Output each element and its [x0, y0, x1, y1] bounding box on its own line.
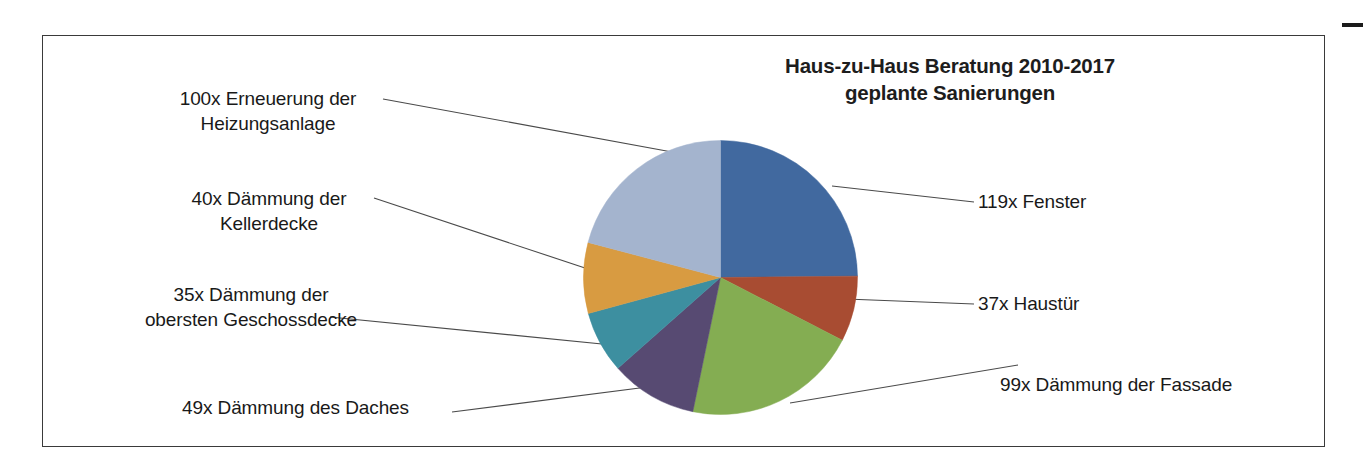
- chart-title-line1: Haus-zu-Haus Beratung 2010-2017: [785, 54, 1115, 77]
- pie-slices: [583, 141, 857, 415]
- chart-title-line2: geplante Sanierungen: [700, 79, 1200, 106]
- pie-chart: [583, 140, 858, 415]
- callout-label-haustuer: 37x Haustür: [978, 291, 1218, 316]
- screenshot-page: Haus-zu-Haus Beratung 2010-2017 geplante…: [0, 0, 1363, 467]
- callout-label-kellerdecke: 40x Dämmung der Kellerdecke: [158, 186, 380, 237]
- scan-edge-mark: [1342, 23, 1363, 27]
- callout-label-fassade: 99x Dämmung der Fassade: [1000, 372, 1300, 397]
- callout-label-dach: 49x Dämmung des Daches: [182, 395, 452, 420]
- callout-keller-line1: 40x Dämmung der: [192, 188, 347, 209]
- pie-chart-svg: [583, 140, 858, 415]
- chart-title: Haus-zu-Haus Beratung 2010-2017 geplante…: [700, 52, 1200, 106]
- callout-label-heizungsanlage: 100x Erneuerung der Heizungsanlage: [148, 86, 388, 137]
- callout-heizung-line1: 100x Erneuerung der: [180, 88, 357, 109]
- callout-label-fenster: 119x Fenster: [978, 189, 1218, 214]
- callout-keller-line2: Kellerdecke: [220, 213, 318, 234]
- callout-heizung-line2: Heizungsanlage: [201, 113, 336, 134]
- callout-geschoss-line2: obersten Geschossdecke: [145, 309, 357, 330]
- callout-geschoss-line1: 35x Dämmung der: [174, 284, 329, 305]
- callout-label-geschossdecke: 35x Dämmung der obersten Geschossdecke: [106, 282, 396, 333]
- pie-slice: [721, 141, 858, 278]
